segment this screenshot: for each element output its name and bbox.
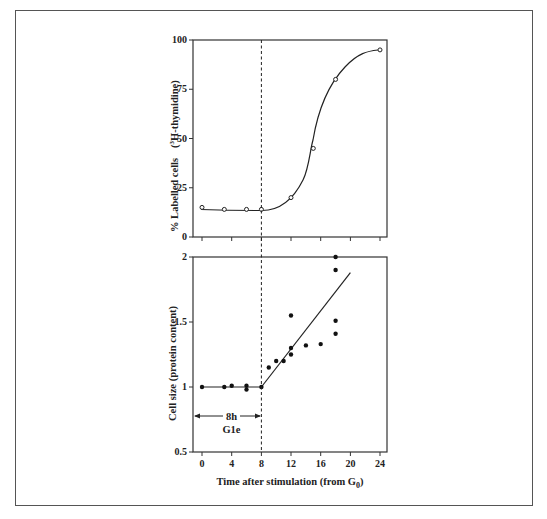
data-point	[333, 332, 337, 336]
bottom-y-ticks	[189, 257, 193, 452]
top-plot-area	[193, 40, 387, 237]
x-tick-label: 8	[259, 458, 264, 469]
arrow-right-head-icon	[255, 414, 261, 419]
data-point	[304, 343, 308, 347]
data-point	[244, 384, 248, 388]
data-point	[281, 359, 285, 363]
bottom-y-tick-label: 1	[182, 381, 187, 392]
data-point	[319, 342, 323, 346]
x-tick-label: 20	[345, 458, 355, 469]
bottom-y-axis-title: Cell size (protein content)	[167, 306, 179, 421]
bottom-y-tick-label: 2	[182, 251, 187, 262]
top-y-ticks	[189, 40, 193, 237]
data-point	[289, 196, 293, 200]
x-tick-label: 24	[375, 458, 385, 469]
x-tick-label: 16	[316, 458, 326, 469]
data-point	[230, 384, 234, 388]
data-point	[333, 255, 337, 259]
data-point	[333, 319, 337, 323]
bottom-y-tick-label: 0.5	[175, 446, 188, 457]
bottom-x-ticks	[202, 452, 380, 456]
data-point	[333, 268, 337, 272]
data-point	[222, 207, 226, 211]
bottom-panel: 0.5 1 1.5 2 0 4 8 12 16 20 24	[167, 251, 387, 490]
arrow-sublabel: G1e	[222, 424, 240, 435]
data-point	[244, 387, 248, 391]
top-markers	[200, 48, 382, 212]
data-point	[274, 359, 278, 363]
figure-svg: 0 25 50 75 100	[0, 0, 547, 519]
top-x-ticks	[202, 237, 380, 241]
data-point	[289, 352, 293, 356]
arrow-label: 8h	[226, 411, 237, 422]
x-tick-label: 4	[229, 458, 234, 469]
data-point	[378, 48, 382, 52]
data-point	[200, 385, 204, 389]
data-point	[311, 146, 315, 150]
top-y-tick-label: 100	[172, 34, 187, 45]
x-tick-label: 12	[286, 458, 296, 469]
x-tick-label: 0	[200, 458, 205, 469]
g1e-annotation: 8h G1e	[194, 411, 261, 435]
data-point	[245, 207, 249, 211]
arrow-left-head-icon	[194, 414, 200, 419]
data-point	[222, 385, 226, 389]
bottom-fit-line-slope	[261, 273, 350, 387]
top-fit-curve	[201, 50, 378, 211]
top-y-tick-label: 0	[182, 231, 187, 242]
data-point	[289, 313, 293, 317]
x-axis-title: Time after stimulation (from G0)	[217, 476, 364, 490]
data-point	[267, 365, 271, 369]
top-y-axis-title: % Labelled cells(3H-thymidine)	[168, 80, 181, 232]
data-point	[200, 205, 204, 209]
top-panel: 0 25 50 75 100	[168, 34, 387, 242]
x-tick-labels: 0 4 8 12 16 20 24	[200, 458, 386, 469]
data-point	[289, 346, 293, 350]
bottom-markers	[200, 255, 338, 392]
data-point	[334, 77, 338, 81]
